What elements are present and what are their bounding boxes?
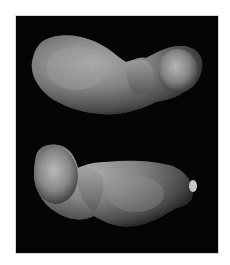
space-background	[16, 16, 218, 253]
asteroid-photo	[16, 16, 218, 253]
image-frame	[15, 15, 219, 254]
asteroid-bottom-view	[34, 144, 197, 226]
asteroid-top-view	[32, 35, 203, 114]
